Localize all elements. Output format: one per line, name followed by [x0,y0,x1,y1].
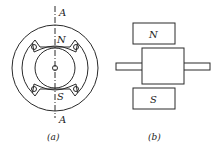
conductor-icon [74,45,79,50]
magnet-label-south: S [150,94,157,105]
caption-a: (a) [47,132,60,142]
caption-b: (b) [148,132,161,142]
figure-a [12,6,98,118]
pole-label-north: N [56,34,67,45]
conductor-icon [32,87,37,92]
axis-label-top: A [58,7,66,18]
axis-label-bottom: A [58,114,66,125]
conductor-icon [32,45,37,50]
figure-b [116,23,210,109]
inner-yoke-arc-left [22,43,33,93]
rotor-box [142,48,184,84]
magnet-label-north: N [148,29,159,40]
pole-label-south: S [57,91,64,102]
inner-yoke-arc-right [78,43,89,93]
conductor-icon [74,87,79,92]
diagram-canvas: A A N S (a) N S (b) [0,0,220,154]
